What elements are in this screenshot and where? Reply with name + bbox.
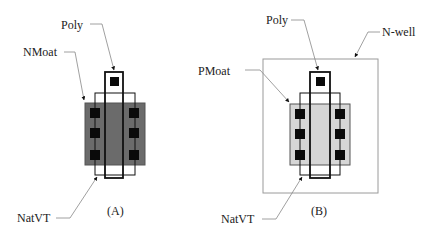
- label-nmoat: NMoat: [23, 46, 57, 58]
- caption-b: (B): [311, 205, 327, 217]
- label-natvt-a: NatVT: [17, 212, 50, 224]
- label-natvt-b: NatVT: [221, 213, 254, 225]
- poly-contact: [110, 77, 119, 86]
- poly-leader-a: [90, 24, 114, 70]
- contact-left-2: [295, 129, 305, 139]
- caption-a: (A): [107, 205, 124, 217]
- contact-right-2: [335, 129, 345, 139]
- label-pmoat: PMoat: [198, 65, 230, 77]
- label-poly-b: Poly: [266, 14, 288, 26]
- label-nwell: N-well: [382, 26, 415, 38]
- natvt-leader-b: [262, 177, 302, 219]
- nwell-leader-b: [355, 32, 380, 57]
- poly-leader-b: [291, 20, 318, 70]
- poly-contact: [316, 77, 325, 86]
- contact-right-1: [335, 109, 345, 119]
- label-poly-a: Poly: [61, 19, 83, 31]
- contact-left-3: [90, 150, 100, 160]
- diagram-b: [245, 20, 380, 219]
- contact-right-3: [335, 150, 345, 160]
- contact-left-3: [295, 150, 305, 160]
- contact-left-2: [90, 128, 100, 138]
- contact-right-3: [129, 150, 139, 160]
- nmoat-leader-a: [64, 52, 84, 100]
- pmoat-leader-b: [245, 70, 289, 102]
- diagram-a: [56, 24, 145, 218]
- contact-left-1: [90, 108, 100, 118]
- contact-right-1: [129, 108, 139, 118]
- contact-left-1: [295, 109, 305, 119]
- contact-right-2: [129, 128, 139, 138]
- layout-diagram: [0, 0, 431, 238]
- natvt-leader-a: [56, 177, 97, 218]
